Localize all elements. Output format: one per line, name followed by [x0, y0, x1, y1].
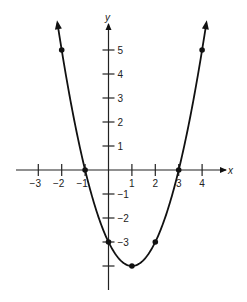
- data-point: [199, 47, 205, 53]
- y-tick-label: 2: [118, 117, 124, 128]
- y-tick-label: 3: [118, 93, 124, 104]
- y-tick-label: −1: [118, 189, 130, 200]
- data-point: [59, 47, 65, 53]
- data-point: [106, 239, 112, 245]
- y-tick-label: −2: [118, 213, 130, 224]
- x-tick-label: 4: [199, 178, 205, 189]
- x-tick-label: 2: [153, 178, 159, 189]
- y-tick-label: −3: [118, 237, 130, 248]
- x-tick-label: −1: [76, 178, 88, 189]
- x-tick-label: −2: [53, 178, 65, 189]
- data-point: [82, 167, 88, 173]
- y-tick-label: 4: [118, 69, 124, 80]
- tick-marks: [38, 50, 202, 266]
- parabola-curve: [57, 23, 206, 266]
- parabola-chart: −3−2−1123454321−1−2−3 x y: [0, 0, 247, 302]
- y-tick-label: 1: [118, 141, 124, 152]
- x-axis-label: x: [227, 165, 234, 176]
- tick-labels: −3−2−1123454321−1−2−3: [30, 45, 206, 248]
- x-tick-label: −3: [30, 178, 42, 189]
- y-axis-label: y: [104, 12, 111, 23]
- y-tick-label: 5: [118, 45, 124, 56]
- curve-arrow-right-icon: [202, 20, 209, 29]
- axes: [16, 24, 226, 290]
- data-point: [176, 167, 182, 173]
- data-point: [129, 263, 135, 269]
- x-tick-label: 1: [129, 178, 135, 189]
- curve-arrow-left-icon: [55, 20, 62, 29]
- data-point: [153, 239, 159, 245]
- data-points: [59, 47, 205, 269]
